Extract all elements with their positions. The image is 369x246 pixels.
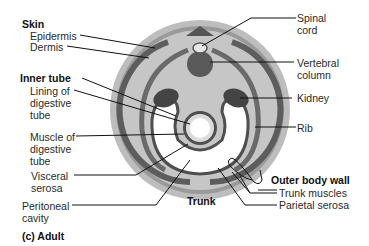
label-vertebral-1: Vertebral	[297, 57, 339, 69]
label-spinal-2: cord	[297, 24, 317, 36]
label-rib: Rib	[297, 122, 313, 134]
label-peritoneal-1: Peritoneal	[22, 200, 69, 212]
label-spinal-1: Spinal	[297, 12, 326, 24]
label-trunk-muscles: Trunk muscles	[279, 187, 347, 199]
label-lining-1: Lining of	[30, 85, 70, 97]
label-trunk: Trunk	[187, 195, 216, 207]
label-lining-2: digestive	[30, 97, 71, 109]
label-muscle-1: Muscle of	[30, 131, 75, 143]
label-vertebral-2: column	[297, 69, 331, 81]
label-visceral-2: serosa	[31, 182, 63, 194]
label-lining-3: tube	[30, 109, 50, 121]
label-muscle-3: tube	[30, 155, 50, 167]
digestive-lumen	[190, 118, 210, 138]
label-skin: Skin	[22, 18, 44, 30]
panel-label: (c) Adult	[22, 230, 64, 242]
label-inner-tube: Inner tube	[20, 72, 71, 84]
label-muscle-2: digestive	[30, 143, 71, 155]
label-parietal-serosa: Parietal serosa	[279, 199, 349, 211]
label-kidney: Kidney	[297, 92, 329, 104]
label-dermis: Dermis	[30, 41, 63, 53]
vertebral-column	[187, 51, 213, 77]
label-visceral-1: Visceral	[31, 170, 68, 182]
label-peritoneal-2: cavity	[22, 212, 49, 224]
label-outer-body-wall: Outer body wall	[271, 174, 350, 186]
